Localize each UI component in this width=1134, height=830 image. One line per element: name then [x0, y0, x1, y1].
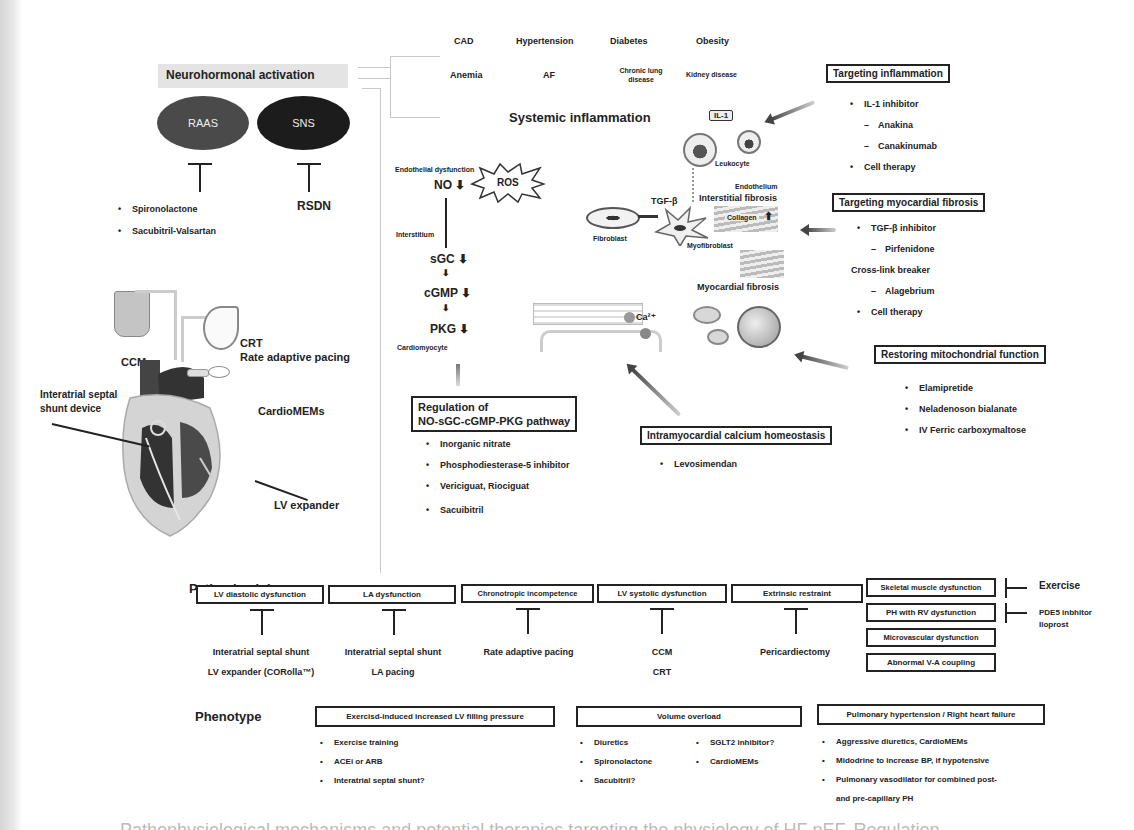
- therapy-lv-diastolic: Interatrial septal shunt LV expander (CO…: [186, 642, 336, 682]
- rate-adaptive-pacing-label: Rate adaptive pacing: [240, 351, 350, 363]
- therapy-item: CRT: [612, 662, 712, 682]
- therapy-la: Interatrial septal shunt LA pacing: [318, 642, 468, 682]
- phenotype-box-volume-overload: Volume overload: [576, 706, 802, 727]
- tgf-beta-label: TGF-β: [651, 196, 678, 206]
- mitochondrial-target-list: Elamipretide Neladenoson bialanate IV Fe…: [905, 378, 1026, 441]
- calcium-target-list: Levosimendan: [660, 454, 737, 474]
- comorbidity-hypertension: Hypertension: [516, 36, 574, 46]
- therapy-item: Inorganic nitrate: [426, 434, 570, 455]
- therapy-item: Sacubitril?: [580, 771, 652, 790]
- therapy-item: LV expander (CORolla™): [186, 662, 336, 682]
- inhibition-symbol: [527, 608, 529, 634]
- phenotype-volume-list-col2: SGLT2 inhibitor? CardioMEMs: [696, 733, 774, 771]
- therapy-item: Diuretics: [580, 733, 652, 752]
- inhibition-symbol: [661, 608, 663, 634]
- calcium-label: Ca²⁺: [636, 312, 656, 322]
- therapy-item: CCM: [612, 642, 712, 662]
- systemic-inflammation-title: Systemic inflammation: [509, 110, 651, 125]
- therapy-extrinsic: Pericardiectomy: [745, 642, 845, 662]
- down-arrow-icon: ⬇: [442, 268, 450, 278]
- therapy-item: Interatrial septal shunt: [186, 642, 336, 662]
- therapy-item: Elamipretide: [905, 378, 1026, 399]
- lead-wire: [174, 290, 177, 360]
- therapy-item: Rate adaptive pacing: [456, 642, 601, 662]
- therapy-item: PDE5 inbhitor: [1039, 607, 1092, 619]
- therapy-item: Canakinumab: [850, 136, 937, 157]
- vertical-divider-line: [380, 88, 381, 573]
- comorbidity-diabetes: Diabetes: [610, 36, 648, 46]
- leukocyte-cell-icon: [683, 133, 717, 167]
- inhibition-symbol: [393, 609, 395, 635]
- therapy-item: SGLT2 inhibitor?: [696, 733, 774, 752]
- therapy-item: Neladenoson bialanate: [905, 399, 1026, 420]
- therapy-ph-rv: PDE5 inbhitor Iloprost: [1039, 607, 1092, 631]
- no-pathway-target-list: Inorganic nitrate Phosphodiesterase-5 in…: [426, 434, 570, 521]
- therapy-item: IL-1 inhibitor: [850, 94, 937, 115]
- pathway-arrow: [445, 198, 447, 248]
- mitochondrion-icon: [737, 306, 781, 348]
- interstitium-label: Interstitium: [396, 231, 434, 238]
- inhibit-arrow: [806, 228, 836, 232]
- sgc-label: sGC ⬇: [430, 252, 468, 266]
- therapy-item: Cross-link breaker: [851, 260, 936, 281]
- cardiomems-loop-icon: [208, 366, 230, 378]
- phenotype-exercise-list: Exercise training ACEi or ARB Interatria…: [320, 733, 425, 790]
- inhibition-symbol: [199, 163, 201, 192]
- ros-label: ROS: [497, 177, 519, 188]
- pathophysiology-box-la: LA dysfunction: [328, 585, 456, 604]
- targeting-fibrosis-box: Targeting myocardial fibrosis: [832, 193, 985, 212]
- therapy-item: Anakina: [850, 115, 937, 136]
- therapy-item: TGF-β inhibitor: [857, 218, 936, 239]
- comorbidity-obesity: Obesity: [696, 36, 729, 46]
- interstitial-fibrosis-label: Interstitial fibrosis: [699, 193, 777, 203]
- therapy-item: and pre-capillary PH: [822, 789, 997, 808]
- therapy-item: Interatrial septal shunt: [318, 642, 468, 662]
- fibrosis-target-list: TGF-β inhibitor Pirfenidone Cross-link b…: [857, 218, 936, 323]
- no-pathway-regulation-box: Regulation of NO-sGC-cGMP-PKG pathway: [411, 396, 577, 432]
- endothelial-dysfunction-label: Endothelial dysfunction: [395, 166, 474, 173]
- leukocyte-cell-icon: [737, 130, 761, 154]
- no-label: NO ⬇: [434, 178, 465, 192]
- therapy-lv-systolic: CCM CRT: [612, 642, 712, 682]
- lead-wire: [181, 318, 184, 362]
- therapy-item: Pericardiectomy: [745, 642, 845, 662]
- cardiomems-label: CardioMEMs: [258, 405, 325, 417]
- neurohormonal-title: Neurohormonal activation: [166, 68, 315, 82]
- cgmp-label: cGMP ⬇: [424, 286, 471, 300]
- box-title-line: Regulation of: [418, 400, 570, 414]
- therapy-item: CardioMEMs: [696, 752, 774, 771]
- comorbidity-kidney-disease: Kidney disease: [686, 71, 737, 78]
- arrow-to-neurohormonal: [358, 78, 390, 79]
- sns-node: SNS: [257, 96, 350, 150]
- pathophysiology-box-extrinsic: Extrinsic restraint: [731, 584, 863, 603]
- connector-line: [390, 56, 391, 118]
- therapy-chronotropic: Rate adaptive pacing: [456, 642, 601, 662]
- cardiomems-sensor-icon: [187, 369, 209, 377]
- raas-drug-list: Spironolactone Sacubitril-Valsartan: [118, 198, 216, 242]
- calcium-ion-icon: [640, 328, 651, 339]
- inhibition-symbol: [261, 609, 263, 635]
- connector-line: [362, 88, 380, 89]
- therapy-item: Levosimendan: [660, 454, 737, 474]
- therapy-item: Cell therapy: [850, 157, 937, 178]
- arrow-to-neurohormonal: [358, 67, 390, 68]
- therapy-item: Pulmonary vasodilator for combined post-: [822, 770, 997, 789]
- increase-arrow-icon: ⬆: [764, 210, 773, 223]
- up-arrow-icon: [456, 364, 460, 386]
- ccm-device-icon: [114, 291, 150, 337]
- lead-wire: [135, 290, 177, 293]
- sns-therapy-rsdn: RSDN: [297, 199, 331, 213]
- pathophysiology-box-chronotropic: Chronotropic incompetence: [461, 584, 594, 603]
- calcium-homeostasis-box: Intramyocardial calcium homeostasis: [640, 426, 832, 445]
- therapy-item: ACEi or ARB: [320, 752, 425, 771]
- myofibroblast-cell-icon: [652, 206, 710, 246]
- pkg-label: PKG ⬇: [430, 322, 469, 336]
- therapy-item: Midodrine to increase BP, if hypotensive: [822, 751, 997, 770]
- therapy-item: IV Ferric carboxymaltose: [905, 420, 1026, 441]
- comorbidity-af: AF: [543, 70, 555, 80]
- figure-caption-partial: Pathophysiological mechanisms and potent…: [120, 822, 1120, 830]
- box-title-line: NO-sGC-cGMP-PKG pathway: [418, 414, 570, 428]
- crt-device-icon: [203, 306, 239, 350]
- inhibition-symbol: [1005, 587, 1027, 589]
- pathophysiology-box-skeletal-muscle: Skeletal muscle dysfunction: [866, 578, 996, 597]
